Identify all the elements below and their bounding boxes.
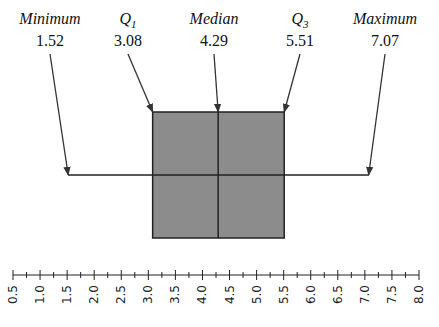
tick-label: 7.5 — [385, 285, 399, 304]
label-q1: Q1 — [119, 10, 136, 30]
value-min: 1.52 — [36, 32, 64, 49]
tick-label: 6.0 — [304, 285, 318, 304]
tick-label: 0.5 — [6, 285, 20, 304]
tick-label: 3.5 — [168, 285, 182, 304]
tick-label: 6.5 — [331, 285, 345, 304]
label-subscript: 1 — [131, 18, 137, 30]
tick-label: 5.5 — [277, 285, 291, 304]
value-median: 4.29 — [200, 32, 228, 49]
arrow-q3 — [284, 54, 300, 112]
tick-label: 1.0 — [33, 285, 47, 304]
tick-label: 3.0 — [141, 285, 155, 304]
tick-label: 2.5 — [114, 285, 128, 304]
label-median: Median — [189, 10, 239, 27]
value-q3: 5.51 — [286, 32, 314, 49]
label-min: Minimum — [18, 10, 80, 27]
value-q1: 3.08 — [114, 32, 142, 49]
tick-label: 2.0 — [87, 285, 101, 304]
tick-label: 5.0 — [250, 285, 264, 304]
tick-label: 1.5 — [60, 285, 74, 304]
value-max: 7.07 — [371, 32, 399, 49]
arrow-max — [369, 54, 385, 175]
arrow-median — [214, 54, 218, 112]
tick-label: 8.0 — [412, 285, 426, 304]
label-max: Maximum — [352, 10, 417, 27]
label-subscript: 3 — [302, 18, 309, 30]
tick-label: 7.0 — [358, 285, 372, 304]
box-plot-chart: Minimum1.52Q13.08Median4.29Q35.51Maximum… — [0, 0, 439, 327]
arrow-q1 — [128, 54, 153, 112]
tick-label: 4.5 — [223, 285, 237, 304]
tick-label: 4.0 — [195, 285, 209, 304]
arrow-min — [50, 54, 68, 175]
label-q3: Q3 — [291, 10, 309, 30]
